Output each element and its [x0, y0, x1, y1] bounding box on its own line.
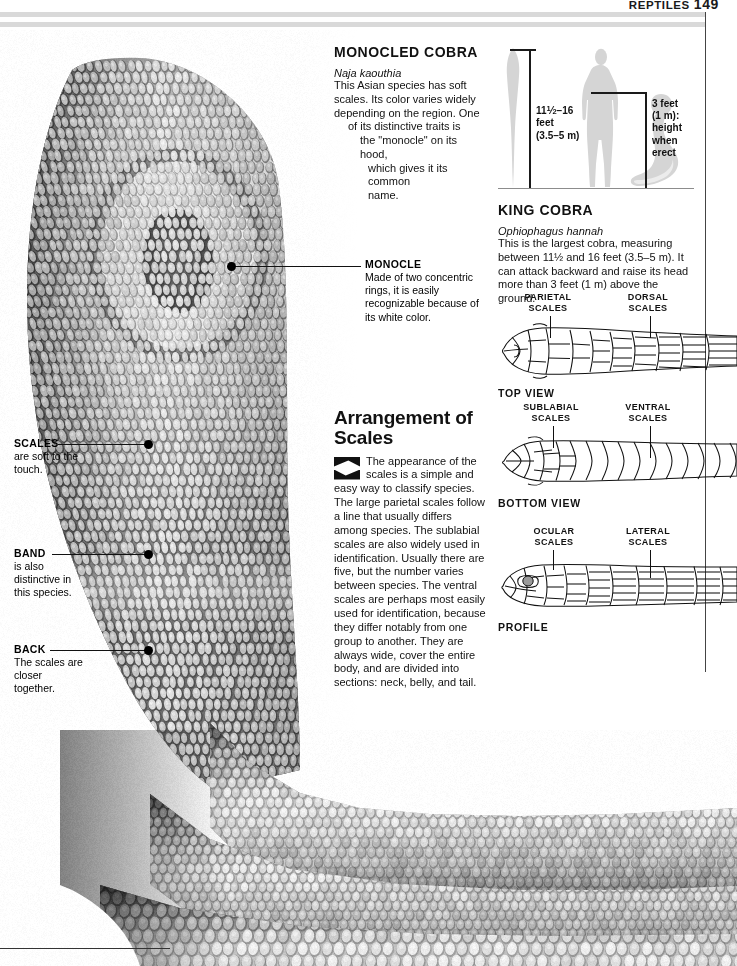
- monocle-callout-body: Made of two concentric rings, it is easi…: [365, 271, 479, 322]
- callout-band-leader: [52, 554, 147, 555]
- arrangement-body: The appearance of the scales is a simple…: [334, 455, 486, 691]
- length-unit-meters: (3.5–5 m): [536, 130, 579, 141]
- scale-view-diagrams: PARIETAL SCALES DORSAL SCALES: [498, 292, 737, 622]
- height-label-line: height: [652, 122, 682, 133]
- callout-back-dot: [144, 646, 153, 655]
- callout-scales-leader: [58, 444, 147, 445]
- label-line: SCALES: [535, 537, 574, 547]
- callout-scales-dot: [144, 440, 153, 449]
- book-page: REPTILES149 MONOCLED COBRA Naja kaouthia…: [0, 0, 737, 966]
- snake-head-top-view-drawing: [498, 320, 737, 382]
- height-label-line: 3 feet: [652, 98, 678, 109]
- callout-back-leader: [50, 650, 147, 651]
- arrangement-title: Arrangement of Scales: [334, 408, 486, 448]
- header-rule-lower: [0, 22, 705, 27]
- label-ocular-scales: OCULAR SCALES: [522, 526, 586, 548]
- footer-rule: [0, 948, 170, 949]
- length-measure-bar: [529, 49, 531, 188]
- page-folio: 149: [694, 0, 719, 12]
- description-line: which gives it its common: [334, 162, 484, 190]
- header-rule-upper: [0, 12, 705, 17]
- label-line: SCALES: [529, 303, 568, 313]
- label-line: VENTRAL: [625, 402, 670, 412]
- label-line: PARIETAL: [525, 292, 572, 302]
- label-lateral-scales: LATERAL SCALES: [616, 526, 680, 548]
- height-label-line: (1 m):: [652, 110, 679, 121]
- snake-head-profile-drawing: [498, 554, 737, 616]
- caption-bottom-view: BOTTOM VIEW: [498, 497, 581, 509]
- description-line: name.: [334, 189, 484, 203]
- label-ocular-stem: [553, 550, 554, 570]
- label-ventral-scales: VENTRAL SCALES: [616, 402, 680, 424]
- label-parietal-stem: [550, 316, 551, 338]
- height-measure-bar: [645, 92, 647, 188]
- description-line: This Asian species has soft: [334, 79, 484, 93]
- height-measure-tick: [591, 92, 647, 94]
- description-line: the "monocle" on its hood,: [334, 134, 484, 162]
- label-parietal-scales: PARIETAL SCALES: [516, 292, 580, 314]
- height-measurement-label: 3 feet (1 m): height when erect: [652, 98, 698, 159]
- label-lateral-stem: [650, 550, 651, 578]
- label-line: SCALES: [532, 413, 571, 423]
- label-sublabial-scales: SUBLABIAL SCALES: [516, 402, 586, 424]
- arrangement-title-line2: Scales: [334, 428, 486, 448]
- monocle-callout: MONOCLE Made of two concentric rings, it…: [365, 258, 485, 324]
- monocled-cobra-scientific-name: Naja kaouthia: [334, 67, 484, 79]
- callout-scales: SCALES are soft to the touch.: [14, 437, 84, 476]
- monocled-cobra-description: This Asian species has soft scales. Its …: [334, 79, 484, 203]
- caption-top-view: TOP VIEW: [498, 387, 555, 399]
- human-silhouette: [576, 48, 626, 189]
- running-head: REPTILES149: [629, 0, 719, 12]
- length-measure-tick: [510, 49, 536, 51]
- scale-view-bottom: SUBLABIAL SCALES VENTRAL SCALES: [498, 402, 737, 494]
- label-line: SCALES: [629, 413, 668, 423]
- length-value: 111⁄2–16: [536, 105, 573, 116]
- scale-view-profile: OCULAR SCALES LATERAL SCALES: [498, 526, 737, 618]
- callout-band-dot: [144, 550, 153, 559]
- label-ventral-stem: [650, 426, 651, 458]
- label-dorsal-scales: DORSAL SCALES: [616, 292, 680, 314]
- label-line: LATERAL: [626, 526, 670, 536]
- length-unit-feet: feet: [536, 117, 554, 128]
- label-sublabial-stem: [553, 426, 554, 448]
- king-cobra-heading: KING COBRA: [498, 202, 698, 218]
- scale-view-top: PARIETAL SCALES DORSAL SCALES: [498, 292, 737, 384]
- snake-length-silhouette: [502, 48, 524, 188]
- monocled-cobra-heading: MONOCLED COBRA: [334, 44, 484, 60]
- monocle-leader-dot: [227, 262, 236, 271]
- eye-marking: [523, 576, 533, 586]
- callout-scales-body: are soft to the touch.: [14, 450, 84, 476]
- king-cobra-block: 111⁄2–16 feet (3.5–5 m): [498, 44, 698, 306]
- height-label-line: when: [652, 135, 678, 146]
- running-head-title: REPTILES: [629, 0, 690, 11]
- label-dorsal-stem: [650, 316, 651, 338]
- description-line: depending on the region. One: [334, 107, 484, 121]
- monocle-leader-line: [231, 266, 361, 267]
- callout-back-body: The scales are closer together.: [14, 656, 84, 695]
- caption-profile: PROFILE: [498, 621, 548, 633]
- size-comparison-diagram: 111⁄2–16 feet (3.5–5 m): [498, 44, 698, 189]
- label-line: DORSAL: [628, 292, 668, 302]
- height-label-line: erect: [652, 147, 676, 158]
- monocled-cobra-block: MONOCLED COBRA Naja kaouthia This Asian …: [334, 44, 484, 203]
- callout-band-body: is also distinctive in this species.: [14, 560, 84, 599]
- monocle-callout-title: MONOCLE: [365, 258, 485, 271]
- label-line: OCULAR: [534, 526, 575, 536]
- label-line: SCALES: [629, 303, 668, 313]
- arrangement-title-line1: Arrangement of: [334, 408, 486, 428]
- snake-head-bottom-view-drawing: [498, 430, 737, 492]
- description-line: scales. Its color varies widely: [334, 93, 484, 107]
- label-line: SUBLABIAL: [523, 402, 579, 412]
- arrangement-of-scales-block: Arrangement of Scales The appearance of …: [334, 408, 486, 690]
- flag-ornament-icon: [334, 457, 360, 481]
- king-cobra-scientific-name: Ophiophagus hannah: [498, 225, 698, 237]
- description-line: of its distinctive traits is: [334, 120, 484, 134]
- label-line: SCALES: [629, 537, 668, 547]
